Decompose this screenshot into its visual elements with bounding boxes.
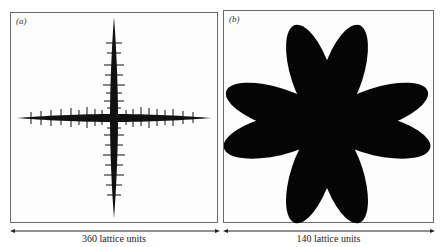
scale-label-a: 360 lattice units <box>10 233 218 244</box>
cross-dendrite-figure <box>11 13 219 224</box>
panel-a: (a) <box>10 12 218 223</box>
panel-b: (b) <box>223 10 434 223</box>
flower-cluster-figure <box>224 11 435 224</box>
scale-label-b: 140 lattice units <box>223 233 434 244</box>
